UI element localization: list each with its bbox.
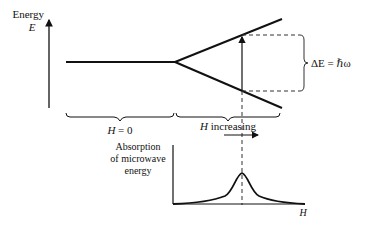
absorption-curve (173, 173, 305, 204)
energy-gap-label: ΔE = ℏω (311, 57, 351, 69)
energy-levels (66, 19, 282, 108)
esr-diagram: Energy E ΔE = ℏω H = 0 H increasing Abso… (0, 0, 366, 229)
energy-gap-dashes (242, 35, 300, 91)
energy-axis-label: Energy (12, 8, 44, 20)
absorption-ylabel-3: energy (124, 165, 151, 176)
absorption-ylabel-2: of microwave (110, 153, 166, 164)
h-increasing-label: H increasing (199, 120, 256, 132)
absorption-xlabel: H (298, 207, 307, 218)
energy-axis-symbol: E (28, 21, 36, 33)
absorption-plot: Absorption of microwave energy H (110, 141, 307, 218)
absorption-ylabel-1: Absorption (116, 141, 161, 152)
brace-h-zero (66, 113, 174, 121)
energy-axis: Energy E (12, 8, 49, 108)
energy-gap-brace (300, 35, 308, 91)
h-zero-label: H = 0 (106, 124, 133, 136)
